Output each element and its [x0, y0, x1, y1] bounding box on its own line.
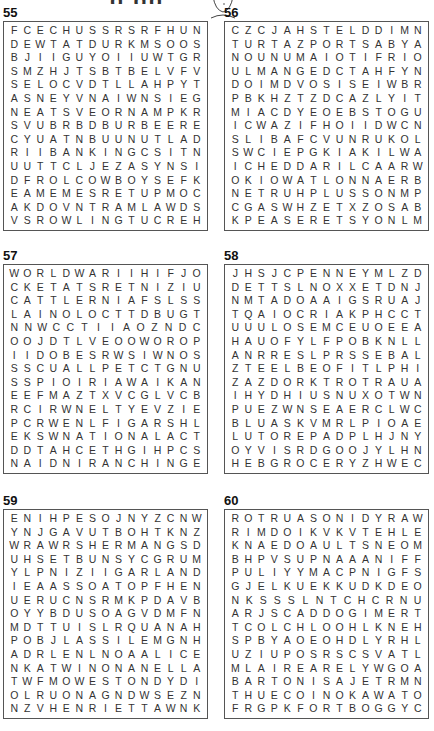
grid-row: CGASWHZETXZOSAB: [229, 201, 424, 215]
grid-letter: S: [99, 634, 112, 648]
grid-letter: N: [190, 146, 203, 160]
grid-letter: T: [125, 702, 138, 716]
grid-letter: K: [372, 580, 385, 594]
grid-letter: P: [8, 634, 21, 648]
grid-letter: H: [164, 580, 177, 594]
grid-letter: M: [229, 106, 242, 120]
grid-letter: H: [281, 389, 294, 403]
grid-row: SSCUALLPETCTGNU: [8, 362, 203, 376]
grid-letter: D: [190, 566, 203, 580]
grid-letter: D: [86, 78, 99, 92]
grid-letter: H: [229, 457, 242, 471]
grid-row: PULIYYMACPNIGFS: [229, 566, 424, 580]
grid-row: JHSJCPENNEYMLZD: [229, 267, 424, 281]
grid-letter: L: [190, 417, 203, 431]
grid-letter: H: [294, 24, 307, 38]
grid-letter: N: [411, 24, 424, 38]
grid-letter: U: [281, 51, 294, 65]
grid-letter: T: [47, 281, 60, 295]
grid-letter: T: [229, 689, 242, 703]
grid-letter: W: [242, 146, 255, 160]
grid-letter: A: [307, 662, 320, 676]
grid-letter: I: [34, 457, 47, 471]
grid-letter: N: [177, 634, 190, 648]
grid-row: ROTRUASONIDYRAW: [229, 512, 424, 526]
grid-letter: S: [294, 349, 307, 363]
grid-letter: A: [255, 308, 268, 322]
grid-letter: S: [125, 349, 138, 363]
grid-letter: L: [268, 580, 281, 594]
grid-letter: S: [177, 294, 190, 308]
grid-letter: C: [125, 457, 138, 471]
grid-letter: L: [86, 417, 99, 431]
grid-letter: D: [151, 675, 164, 689]
grid-letter: U: [385, 294, 398, 308]
grid-letter: O: [164, 38, 177, 52]
grid-letter: L: [151, 389, 164, 403]
grid-letter: G: [164, 634, 177, 648]
grid-letter: P: [385, 362, 398, 376]
grid-letter: G: [177, 457, 190, 471]
grid-letter: E: [307, 106, 320, 120]
grid-letter: O: [398, 662, 411, 676]
grid-letter: P: [164, 106, 177, 120]
grid-letter: T: [346, 65, 359, 79]
grid-letter: E: [320, 201, 333, 215]
grid-letter: O: [112, 335, 125, 349]
grid-letter: W: [398, 389, 411, 403]
grid-letter: O: [21, 267, 34, 281]
grid-letter: J: [268, 24, 281, 38]
grid-letter: F: [21, 174, 34, 188]
grid-letter: C: [73, 174, 86, 188]
grid-letter: L: [268, 321, 281, 335]
grid-letter: O: [8, 689, 21, 703]
grid-letter: A: [268, 214, 281, 228]
grid-letter: A: [320, 566, 333, 580]
grid-letter: G: [385, 566, 398, 580]
grid-letter: N: [164, 621, 177, 635]
grid-letter: W: [151, 349, 164, 363]
grid-letter: R: [268, 512, 281, 526]
grid-letter: T: [151, 362, 164, 376]
grid-letter: E: [411, 526, 424, 540]
grid-letter: T: [190, 308, 203, 322]
grid-letter: U: [164, 308, 177, 322]
grid-letter: Z: [73, 389, 86, 403]
grid-letter: R: [255, 349, 268, 363]
grid-letter: R: [372, 376, 385, 390]
grid-row: PBKHZTZDCAZLYIT: [229, 92, 424, 106]
grid-letter: D: [411, 267, 424, 281]
grid-letter: A: [125, 662, 138, 676]
grid-letter: E: [151, 119, 164, 133]
grid-letter: J: [411, 294, 424, 308]
grid-letter: I: [307, 689, 320, 703]
grid-letter: A: [307, 51, 320, 65]
grid-letter: D: [190, 133, 203, 147]
grid-letter: A: [99, 92, 112, 106]
grid-letter: T: [333, 702, 346, 716]
grid-letter: G: [294, 65, 307, 79]
grid-letter: Y: [398, 38, 411, 52]
grid-letter: U: [333, 187, 346, 201]
grid-letter: H: [355, 594, 368, 608]
grid-letter: T: [73, 65, 86, 79]
grid-letter: C: [255, 146, 268, 160]
grid-letter: S: [164, 417, 177, 431]
grid-letter: H: [21, 553, 34, 567]
grid-letter: Z: [151, 512, 164, 526]
grid-letter: M: [294, 51, 307, 65]
grid-letter: O: [21, 335, 34, 349]
grid-letter: R: [34, 689, 47, 703]
grid-letter: Z: [294, 38, 307, 52]
grid-letter: R: [385, 51, 398, 65]
grid-letter: I: [151, 281, 164, 295]
grid-letter: G: [385, 702, 398, 716]
grid-letter: R: [359, 403, 372, 417]
grid-letter: S: [229, 133, 242, 147]
grid-letter: L: [346, 417, 359, 431]
grid-letter: F: [411, 553, 424, 567]
grid-letter: T: [268, 281, 281, 295]
grid-letter: U: [21, 160, 34, 174]
grid-letter: S: [73, 580, 86, 594]
grid-letter: L: [398, 214, 411, 228]
